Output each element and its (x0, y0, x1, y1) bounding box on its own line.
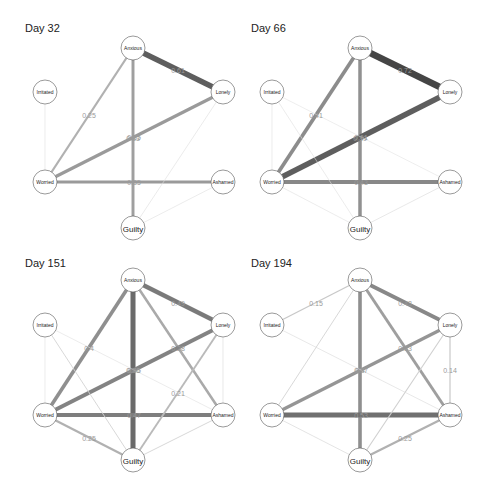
node-ashamed: Ashamed (438, 403, 462, 427)
node-label: Anxious (124, 45, 142, 51)
node-anxious: Anxious (121, 36, 145, 60)
edge-weight-label: 0.21 (171, 390, 185, 397)
node-guilty: Guilty (121, 216, 145, 240)
node-label: Lonely (443, 89, 458, 95)
node-label: Worried (36, 179, 54, 185)
node-anxious: Anxious (121, 268, 145, 292)
node-lonely: Lonely (438, 80, 462, 104)
node-label: Lonely (216, 322, 231, 328)
node-label: Ashamed (212, 179, 233, 185)
node-lonely: Lonely (211, 80, 235, 104)
network-graph: 0.490.40.560.280.450.470.250.21AnxiousLo… (0, 250, 243, 500)
node-label: Anxious (351, 45, 369, 51)
edge-weight-label: 0.47 (127, 412, 141, 419)
node-label: Guilty (123, 225, 143, 234)
node-irritated: Irritated (33, 80, 57, 104)
node-label: Worried (263, 179, 281, 185)
edge-weight-label: 0.37 (354, 367, 368, 374)
edge-weight-label: 0.15 (309, 300, 323, 307)
edge-weight-label: 0.43 (354, 179, 368, 186)
node-label: Irritated (264, 322, 281, 328)
node-label: Guilty (350, 457, 370, 466)
edge-weight-label: 0.14 (443, 367, 457, 374)
edge-weight-label: 0.53 (354, 412, 368, 419)
node-guilty: Guilty (121, 448, 145, 472)
edge-weight-label: 0.25 (398, 435, 412, 442)
network-panel-day-66: Day 66 0.720.410.390.610.43AnxiousLonely… (245, 0, 487, 250)
node-label: Lonely (216, 89, 231, 95)
edge-weight-label: 0.35 (127, 134, 141, 141)
node-irritated: Irritated (260, 313, 284, 337)
node-guilty: Guilty (348, 448, 372, 472)
node-label: Ashamed (439, 412, 460, 418)
edge-weight-label: 0.25 (82, 435, 96, 442)
node-label: Anxious (124, 277, 142, 283)
edge-weight-label: 0.43 (398, 300, 412, 307)
node-anxious: Anxious (348, 268, 372, 292)
edge-ashamed-guilty (133, 415, 223, 460)
network-panel-day-194: Day 194 0.430.40.330.150.370.530.140.25A… (245, 250, 487, 500)
edge-ashamed-guilty (360, 182, 450, 228)
network-graph: 0.720.410.390.610.43AnxiousLonelyIrritat… (245, 0, 487, 250)
edge-weight-label: 0.35 (127, 179, 141, 186)
node-irritated: Irritated (33, 313, 57, 337)
node-label: Worried (263, 412, 281, 418)
node-label: Guilty (123, 457, 143, 466)
node-ashamed: Ashamed (438, 170, 462, 194)
node-irritated: Irritated (260, 80, 284, 104)
edge-weight-label: 0.4 (84, 345, 94, 352)
node-ashamed: Ashamed (211, 403, 235, 427)
network-graph: 0.610.250.330.350.35AnxiousLonelyIrritat… (0, 0, 243, 250)
network-panel-day-151: Day 151 0.490.40.560.280.450.470.250.21A… (0, 250, 243, 500)
network-panel-day-32: Day 32 0.610.250.330.350.35AnxiousLonely… (0, 0, 243, 250)
edge-weight-label: 0.61 (354, 134, 368, 141)
edge-weight-label: 0.72 (398, 67, 412, 74)
edge-weight-label: 0.41 (309, 112, 323, 119)
edge-lonely-guilty (133, 92, 223, 228)
node-worried: Worried (260, 403, 284, 427)
edge-weight-label: 0.49 (171, 300, 185, 307)
node-label: Worried (36, 412, 54, 418)
node-worried: Worried (33, 170, 57, 194)
node-lonely: Lonely (211, 313, 235, 337)
edge-worried-guilty (272, 415, 360, 460)
node-label: Irritated (37, 89, 54, 95)
node-label: Irritated (37, 322, 54, 328)
node-label: Ashamed (212, 412, 233, 418)
node-worried: Worried (260, 170, 284, 194)
node-guilty: Guilty (348, 216, 372, 240)
node-label: Guilty (350, 225, 370, 234)
edge-ashamed-guilty (133, 182, 223, 228)
edge-weight-label: 0.25 (82, 112, 96, 119)
edge-weight-label: 0.61 (171, 67, 185, 74)
node-label: Lonely (443, 322, 458, 328)
network-graph: 0.430.40.330.150.370.530.140.25AnxiousLo… (245, 250, 487, 500)
node-anxious: Anxious (348, 36, 372, 60)
edge-worried-guilty (272, 182, 360, 228)
node-lonely: Lonely (438, 313, 462, 337)
edge-weight-label: 0.28 (171, 345, 185, 352)
node-worried: Worried (33, 403, 57, 427)
node-label: Anxious (351, 277, 369, 283)
edge-weight-label: 0.33 (398, 345, 412, 352)
node-label: Ashamed (439, 179, 460, 185)
node-ashamed: Ashamed (211, 170, 235, 194)
edge-weight-label: 0.45 (127, 367, 141, 374)
node-label: Irritated (264, 89, 281, 95)
